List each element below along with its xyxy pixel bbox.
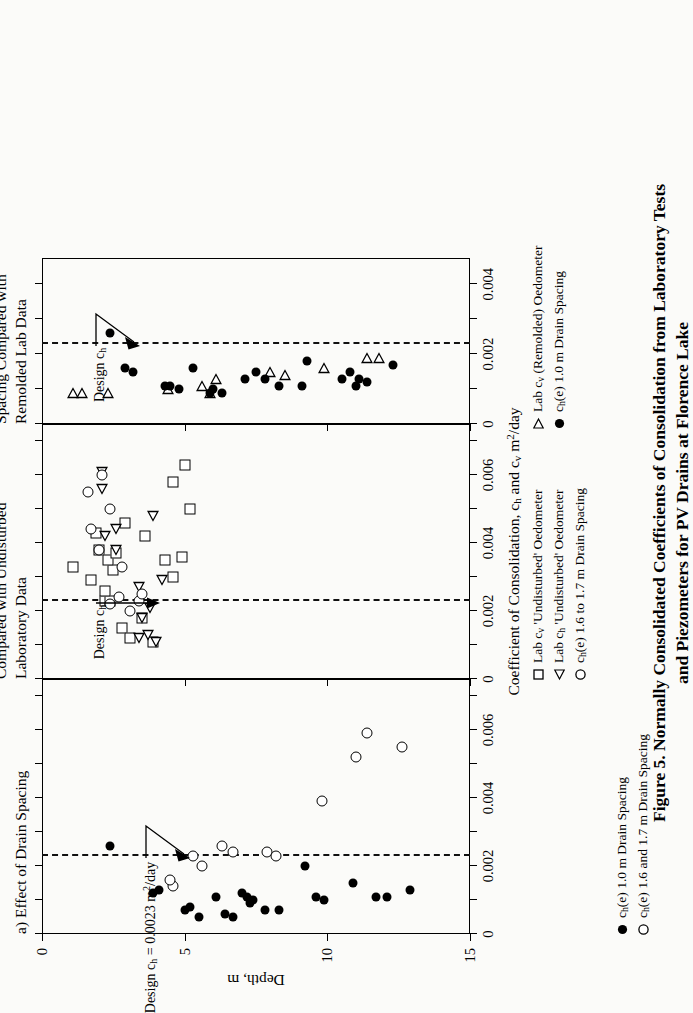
data-point-open-triangle-right (278, 369, 291, 382)
data-point-filled-circle (346, 367, 355, 376)
x-axis-tick (470, 508, 477, 509)
x-axis-tick-top (35, 576, 42, 577)
data-point-open-circle (196, 861, 207, 872)
data-point-open-triangle-right (210, 372, 223, 385)
figure-caption-line2: and Piezometers for PV Drains at Florenc… (671, 23, 693, 983)
design-ch-annotation-c: Design ch (92, 348, 108, 402)
legend-symbol-filled-circle (616, 923, 629, 936)
y-axis-tick-label: 5 (176, 948, 193, 955)
panel-y-tick (185, 679, 186, 686)
panel-y-tick (470, 679, 471, 686)
x-axis-tick-label: 0.002 (480, 850, 497, 883)
data-point-open-circle (216, 840, 227, 851)
panel-y-tick (42, 934, 43, 941)
legend-item-label: Lab cv 'Undisturbed' Oedometer (530, 489, 546, 663)
panel-title-b: b) Field Data at Large Spacing Compared … (0, 384, 30, 679)
data-point-open-square (176, 551, 187, 562)
panel-y-tick (185, 424, 186, 431)
design-ch-arrow-b (94, 545, 164, 605)
x-axis-tick (470, 283, 477, 284)
x-axis-tick-label: 0.006 (480, 459, 497, 492)
x-axis-tick-top (35, 423, 42, 424)
x-axis-tick (470, 353, 477, 354)
data-point-filled-circle (337, 374, 346, 383)
data-point-filled-circle (349, 879, 358, 888)
design-ch-annotation-b: Design ch (92, 605, 108, 659)
x-axis-title: Coefficient of Consolidation, ch and cv … (504, 407, 523, 695)
data-point-filled-circle (240, 374, 249, 383)
legend-item-lab-cv-undisturbed: Lab cv 'Undisturbed' Oedometer (530, 489, 546, 681)
design-ch-annotation-a: Design ch = 0.0023 m2/day (141, 862, 158, 1013)
x-axis-tick-top (35, 508, 42, 509)
data-point-filled-circle (249, 896, 258, 905)
x-axis-tick (470, 899, 477, 900)
data-point-open-circle (350, 752, 361, 763)
panel-y-tick (185, 934, 186, 941)
x-axis-tick-top (35, 542, 42, 543)
design-ch-line-a (42, 854, 470, 856)
panel-y-tick (470, 934, 471, 941)
x-axis-tick (470, 644, 477, 645)
data-point-open-square (185, 504, 196, 515)
data-point-open-circle (362, 728, 373, 739)
panel-title-c: c) Field Data at Small Spacing Compared … (0, 218, 30, 424)
x-axis-tick-top (35, 644, 42, 645)
data-point-open-circle (228, 847, 239, 858)
x-axis-tick-label: 0.002 (480, 595, 497, 628)
data-point-filled-circle (260, 374, 269, 383)
data-point-filled-circle (260, 906, 269, 915)
data-point-filled-circle (252, 367, 261, 376)
data-point-open-square (168, 572, 179, 583)
data-point-filled-circle (363, 378, 372, 387)
data-point-filled-circle (217, 388, 226, 397)
x-axis-tick-top (35, 440, 42, 441)
legend-item-che-16-17: ch(e) 1.6 to 1.7 m Drain Spacing (572, 488, 588, 681)
legend-item-che-10-a: ch(e) 1.0 m Drain Spacing (614, 777, 630, 936)
data-point-open-triangle-left (150, 635, 163, 648)
data-point-open-circle (316, 796, 327, 807)
data-point-open-square (168, 476, 179, 487)
data-point-filled-circle (186, 902, 195, 911)
data-point-filled-circle (274, 906, 283, 915)
x-axis-tick (470, 576, 477, 577)
legend-symbol-open-triangle-left (553, 668, 566, 681)
legend-symbol-open-circle (574, 668, 587, 681)
y-axis-tick-label: 15 (462, 948, 479, 963)
data-point-filled-circle (212, 892, 221, 901)
data-point-filled-circle (106, 841, 115, 850)
x-axis-tick (470, 831, 477, 832)
panel-y-tick (470, 424, 471, 431)
legend-symbol-filled-circle (553, 417, 566, 430)
legend-item-lab-ch-undisturbed: Lab ch 'Undisturbed' Oedometer (551, 489, 567, 681)
legend-item-label: Lab ch 'Undisturbed' Oedometer (551, 489, 567, 663)
x-axis-tick-top (35, 695, 42, 696)
x-axis-tick (470, 695, 477, 696)
legend-item-label: Lab cv (Remolded) Oedometer (530, 246, 546, 412)
x-axis-tick-top (35, 353, 42, 354)
figure-caption-line1: Figure 5. Normally Consolidated Coeffici… (648, 23, 671, 983)
legend-item-lab-cv-remolded: Lab cv (Remolded) Oedometer (530, 246, 546, 430)
panel-title-a: a) Effect of Drain Spacing (11, 639, 30, 934)
x-axis-tick-top (35, 763, 42, 764)
x-axis-tick-top (35, 678, 42, 679)
data-point-filled-circle (383, 892, 392, 901)
data-point-filled-circle (174, 385, 183, 394)
data-point-open-triangle-right (75, 386, 88, 399)
data-point-filled-circle (237, 889, 246, 898)
design-ch-arrow-a (144, 800, 214, 860)
data-point-open-circle (165, 874, 176, 885)
data-point-open-triangle-left (110, 523, 123, 536)
legend-symbol-open-triangle-right (532, 417, 545, 430)
panel-y-tick (327, 424, 328, 431)
x-axis-tick-top (35, 610, 42, 611)
x-axis-tick-top (35, 831, 42, 832)
design-ch-arrow-c (94, 288, 164, 348)
legend-item-label: ch(e) 1.0 m Drain Spacing (551, 271, 567, 412)
data-point-open-triangle-right (372, 351, 385, 364)
x-axis-tick (470, 388, 477, 389)
data-point-filled-circle (371, 892, 380, 901)
x-axis-tick-label: 0.006 (480, 714, 497, 747)
data-point-filled-circle (300, 862, 309, 871)
